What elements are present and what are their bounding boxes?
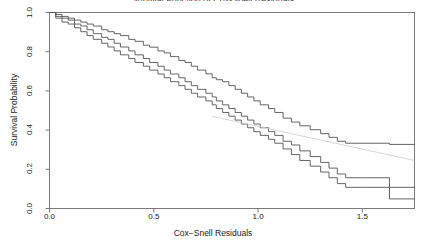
series-upper-confidence-band <box>50 13 415 145</box>
y-tick-label: 1.0 <box>25 1 34 23</box>
series-survival-estimate <box>50 13 415 188</box>
x-tick-label: 0.5 <box>148 212 159 221</box>
chart-figure: Survival Function of Cox-Snell Residuals… <box>0 0 426 250</box>
x-tick-label: 1.5 <box>357 212 368 221</box>
series-reference-line <box>212 116 414 160</box>
x-tick-label: 1.0 <box>253 212 264 221</box>
plot-border <box>50 13 415 209</box>
y-tick-label: 0.0 <box>25 197 34 219</box>
y-tick-label: 0.2 <box>25 158 34 180</box>
y-tick-label: 0.4 <box>25 119 34 141</box>
y-tick-label: 0.6 <box>25 79 34 101</box>
y-tick-label: 0.8 <box>25 40 34 62</box>
series-lower-confidence-band <box>50 13 415 199</box>
x-axis-label: Cox−Snell Residuals <box>0 228 426 238</box>
x-tick-label: 0.0 <box>44 212 55 221</box>
y-axis-label: Survival Probability <box>9 50 19 170</box>
